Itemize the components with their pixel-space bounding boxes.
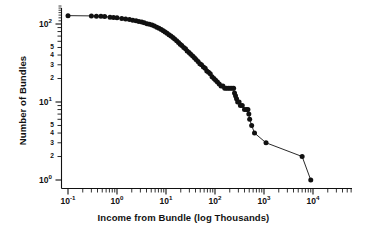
y-tick-label-major: 101 xyxy=(22,97,52,107)
x-axis-title: Income from Bundle (log Thousands) xyxy=(0,212,367,223)
y-tick-label-minor: 4 xyxy=(24,51,54,58)
chart-figure: Income from Bundle (log Thousands) Numbe… xyxy=(0,0,367,233)
data-point-marker xyxy=(94,14,99,19)
data-point-marker xyxy=(264,140,269,145)
y-axis-ticks xyxy=(56,6,62,180)
x-tick-label: 10-1 xyxy=(51,196,85,206)
x-tick-label: 103 xyxy=(247,196,281,206)
data-series-markers xyxy=(66,13,314,182)
data-point-marker xyxy=(231,86,236,91)
data-point-marker xyxy=(308,178,313,183)
series-polyline xyxy=(68,16,311,180)
y-tick-label-minor: 2 xyxy=(24,152,54,159)
y-tick-label-minor: 2 xyxy=(24,74,54,81)
data-point-marker xyxy=(246,112,251,117)
data-point-marker xyxy=(252,131,257,136)
y-tick-label-minor: 5 xyxy=(24,121,54,128)
data-point-marker xyxy=(102,14,107,19)
x-tick-label: 100 xyxy=(100,196,134,206)
y-tick-label-minor: 5 xyxy=(24,43,54,50)
data-point-marker xyxy=(66,13,71,18)
data-point-marker xyxy=(89,13,94,18)
x-tick-label: 102 xyxy=(198,196,232,206)
data-point-marker xyxy=(300,154,305,159)
axis-spines xyxy=(62,8,353,189)
data-point-marker xyxy=(247,117,252,122)
data-point-marker xyxy=(245,107,250,112)
x-axis-ticks xyxy=(68,189,351,195)
y-tick-label-major: 100 xyxy=(22,175,52,185)
data-point-marker xyxy=(249,123,254,128)
y-tick-label-minor: 3 xyxy=(24,139,54,146)
data-point-marker xyxy=(115,15,120,20)
data-series-line xyxy=(68,16,311,180)
y-tick-label-minor: 4 xyxy=(24,129,54,136)
x-tick-label: 101 xyxy=(149,196,183,206)
y-tick-label-major: 102 xyxy=(22,19,52,29)
x-tick-label: 104 xyxy=(296,196,330,206)
y-tick-label-minor: 3 xyxy=(24,61,54,68)
